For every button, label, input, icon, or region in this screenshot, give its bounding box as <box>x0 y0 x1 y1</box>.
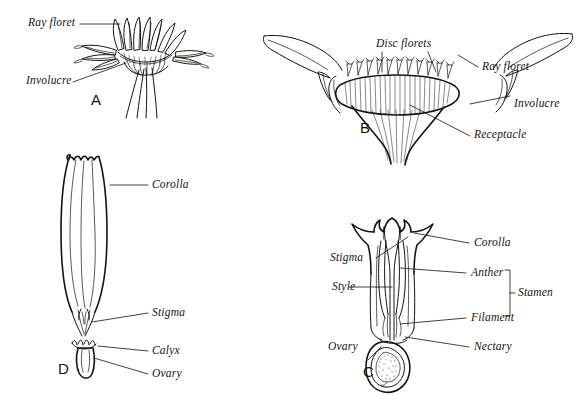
label-c-ovary: Ovary <box>328 341 358 353</box>
leader-c-filament <box>400 318 466 324</box>
label-c-nectary: Nectary <box>474 341 512 353</box>
leader-d-stigma <box>92 313 148 322</box>
label-b-involucre: Involucre <box>514 98 559 110</box>
leader-c-corolla <box>414 233 469 243</box>
label-b-disc-florets: Disc florets <box>376 38 431 50</box>
label-a-involucre: Involucre <box>26 75 71 87</box>
label-d-ovary: Ovary <box>152 368 182 380</box>
label-d-corolla: Corolla <box>152 179 189 191</box>
panel-d-drawing <box>61 155 148 378</box>
ovule-stippling <box>378 354 396 379</box>
label-d-stigma: Stigma <box>152 307 185 319</box>
label-c-stigma: Stigma <box>330 252 363 264</box>
label-c-anther: Anther <box>471 267 504 279</box>
label-c-style: Style <box>332 281 355 293</box>
label-c-corolla: Corolla <box>474 237 511 249</box>
label-b-ray-floret: Ray floret <box>482 61 529 73</box>
label-c-stamen: Stamen <box>518 287 553 299</box>
panel-letter-a: A <box>91 92 101 107</box>
panel-letter-c: C <box>363 364 374 379</box>
leader-d-ovary <box>94 358 148 374</box>
stamen-bracket <box>505 270 510 316</box>
leader-d-calyx <box>98 346 148 351</box>
label-c-filament: Filament <box>471 312 514 324</box>
label-d-calyx: Calyx <box>152 345 180 357</box>
panel-letter-b: B <box>360 120 370 135</box>
leader-c-nectary <box>405 337 469 347</box>
leader-c-anther <box>400 268 466 273</box>
leader-b-ray-floret <box>458 55 478 67</box>
receptacle-hatching <box>345 75 450 114</box>
botanical-figure: Ray floret Involucre A Disc florets Ray … <box>0 0 583 406</box>
label-b-receptacle: Receptacle <box>474 129 526 141</box>
panel-letter-d: D <box>58 361 69 376</box>
leader-c-stigma <box>376 237 408 258</box>
label-a-ray-floret: Ray floret <box>28 17 75 29</box>
leader-c-ovary <box>368 347 381 360</box>
